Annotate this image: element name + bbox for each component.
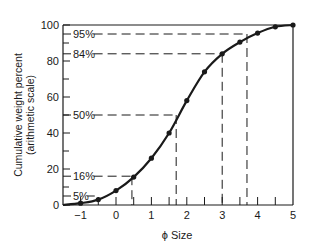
y-axis-label-group: Cumulative weight percent (arithmetic sc…	[12, 53, 36, 177]
percentile-label: 95%	[73, 28, 95, 40]
x-tick-label: −1	[74, 209, 87, 221]
data-point-marker	[202, 69, 207, 74]
x-tick-label: 0	[113, 209, 119, 221]
x-tick-label: 3	[219, 209, 225, 221]
y-tick-label: 60	[47, 91, 59, 103]
percentile-label: 50%	[73, 109, 95, 121]
data-point-marker	[149, 156, 154, 161]
percentile-guides: 95%84%50%16%5%	[63, 28, 247, 205]
cumulative-curve-chart: 020406080100 −1012345 95%84%50%16%5% ϕ S…	[0, 0, 309, 246]
data-point-marker	[113, 188, 118, 193]
data-point-marker	[78, 201, 83, 206]
data-point-marker	[255, 30, 260, 35]
y-tick-label: 80	[47, 55, 59, 67]
data-point-marker	[184, 98, 189, 103]
percentile-label: 5%	[73, 190, 89, 202]
y-tick-label: 100	[41, 19, 59, 31]
x-tick-label: 2	[184, 209, 190, 221]
x-tick-label: 5	[290, 209, 296, 221]
data-point-marker	[96, 197, 101, 202]
data-point-marker	[131, 175, 136, 180]
percentile-label: 84%	[73, 48, 95, 60]
y-tick-label: 40	[47, 127, 59, 139]
data-point-marker	[273, 24, 278, 29]
data-point-marker	[290, 22, 295, 27]
y-tick-label: 20	[47, 163, 59, 175]
data-point-marker	[167, 130, 172, 135]
x-axis-label: ϕ Size	[162, 229, 193, 241]
y-axis-label-sub: (arithmetic scale)	[24, 75, 36, 155]
x-tick-label: 1	[148, 209, 154, 221]
data-point-marker	[220, 51, 225, 56]
data-point-marker	[237, 40, 242, 45]
y-tick-label: 0	[53, 199, 59, 211]
percentile-label: 16%	[73, 170, 95, 182]
data-series-curve	[63, 22, 296, 205]
x-axis-ticks: −1012345	[74, 197, 296, 221]
y-axis-label: Cumulative weight percent	[12, 53, 24, 177]
x-tick-label: 4	[255, 209, 261, 221]
